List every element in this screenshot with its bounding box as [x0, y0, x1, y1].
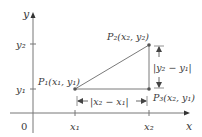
point-p2 [147, 43, 151, 47]
y-axis-arrow-icon [31, 12, 36, 18]
y-axis-label: y [22, 8, 30, 21]
tick-y1-label: y₁ [15, 84, 26, 95]
tick-x1-label: x₁ [70, 121, 80, 132]
x-axis-label: x [186, 120, 193, 133]
hypotenuse [75, 45, 149, 89]
point-p3-label: P₃(x₂, y₁) [152, 92, 195, 103]
origin-label: 0 [21, 121, 27, 132]
point-p1-label: P₁(x₁, y₁) [37, 76, 80, 87]
point-p1 [73, 87, 77, 91]
vertical-distance-label: |y₂ − y₁| [153, 62, 192, 74]
x-axis-arrow-icon [184, 111, 190, 116]
tick-x2-label: x₂ [144, 121, 154, 132]
horizontal-distance-label: |x₂ − x₁| [90, 96, 129, 108]
distance-diagram: y x 0 y₂ y₁ x₁ x₂ P₁(x₁, y₁) P₂(x₂, y₂) … [0, 0, 202, 137]
right-triangle [75, 45, 149, 89]
point-p2-label: P₂(x₂, y₂) [106, 31, 149, 42]
point-p3 [147, 87, 151, 91]
tick-y2-label: y₂ [15, 39, 26, 50]
